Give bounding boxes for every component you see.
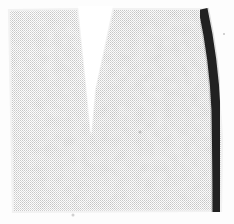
speck-lower-centre	[72, 214, 75, 217]
speck-mid-right	[139, 131, 142, 134]
specimen-image	[0, 0, 234, 224]
specimen-svg	[0, 0, 234, 224]
speck-upper-band	[223, 33, 225, 35]
specimen-body	[0, 0, 234, 224]
halftone-mottle	[0, 0, 234, 224]
figure-root	[0, 0, 234, 224]
